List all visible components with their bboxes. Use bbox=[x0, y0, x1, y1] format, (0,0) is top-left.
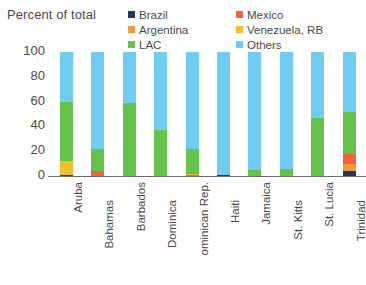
bar-ominican-rep bbox=[186, 52, 199, 176]
bar-segment bbox=[217, 175, 230, 176]
x-axis-category-label: Bahamas bbox=[103, 200, 116, 249]
legend-item: Others bbox=[236, 38, 323, 51]
legend-swatch-icon bbox=[128, 41, 135, 48]
x-axis-category-text: Haiti bbox=[229, 200, 242, 223]
bar-segment bbox=[343, 112, 356, 154]
legend-column-2: MexicoVenezuela, RBOthers bbox=[236, 8, 323, 53]
plot-area bbox=[52, 52, 366, 176]
x-axis-category-label: ominican Rep. bbox=[198, 182, 211, 256]
legend-swatch-icon bbox=[236, 11, 243, 18]
stacked-bar-chart: Percent of total BrazilArgentinaLAC Mexi… bbox=[0, 0, 366, 285]
bar-segment bbox=[60, 102, 73, 162]
legend-label: Others bbox=[247, 39, 282, 51]
y-axis-tick-mark bbox=[48, 176, 52, 177]
bar-bahamas bbox=[91, 52, 104, 176]
y-axis-tick-label: 60 bbox=[31, 96, 45, 106]
x-axis-category-text: ominican Rep. bbox=[198, 182, 211, 256]
bar-segment bbox=[186, 175, 199, 176]
bar-jamaica bbox=[248, 52, 261, 176]
bar-segment bbox=[248, 52, 261, 170]
x-axis-category-text: Bahamas bbox=[103, 200, 116, 249]
legend-item: Venezuela, RB bbox=[236, 23, 323, 36]
bar-segment bbox=[280, 52, 293, 169]
x-axis-category-text: Barbados bbox=[135, 182, 148, 231]
bar-segment bbox=[311, 52, 324, 118]
bar-segment bbox=[91, 171, 104, 176]
bar-segment bbox=[91, 149, 104, 171]
bar-trinidad bbox=[343, 52, 356, 176]
x-axis-labels: ArubaBahamasBarbadosDominicaominican Rep… bbox=[52, 178, 366, 285]
x-axis-category-text: Jamaica bbox=[260, 182, 273, 225]
x-axis-category-label: Dominica bbox=[166, 200, 179, 248]
x-axis-category-label: Haiti bbox=[229, 200, 242, 223]
bar-dominica bbox=[154, 52, 167, 176]
legend-label: LAC bbox=[139, 39, 161, 51]
y-axis-tick-label: 0 bbox=[38, 170, 45, 180]
bar-segment bbox=[123, 52, 136, 103]
bar-segment bbox=[186, 52, 199, 149]
bar-segment bbox=[60, 161, 73, 175]
legend-item: LAC bbox=[128, 38, 188, 51]
bar-segment bbox=[248, 170, 261, 176]
legend-swatch-icon bbox=[236, 41, 243, 48]
bar-haiti bbox=[217, 52, 230, 176]
legend-label: Brazil bbox=[139, 9, 168, 21]
bar-aruba bbox=[60, 52, 73, 176]
legend-item: Argentina bbox=[128, 23, 188, 36]
legend-item: Brazil bbox=[128, 8, 188, 21]
bar-segment bbox=[91, 52, 104, 149]
legend-swatch-icon bbox=[236, 26, 243, 33]
legend-label: Mexico bbox=[247, 9, 283, 21]
bar-segment bbox=[343, 171, 356, 176]
bar-segment bbox=[343, 52, 356, 112]
x-axis-category-text: St. Lucia bbox=[323, 182, 336, 227]
y-axis-labels: 020406080100 bbox=[0, 0, 45, 285]
bar-st-lucia bbox=[311, 52, 324, 176]
y-axis-tick-label: 20 bbox=[31, 145, 45, 155]
bar-segment bbox=[311, 118, 324, 176]
x-axis-category-label: Aruba bbox=[72, 182, 85, 213]
bar-barbados bbox=[123, 52, 136, 176]
x-axis-category-label: Trinidad bbox=[355, 200, 366, 241]
legend-item: Mexico bbox=[236, 8, 323, 21]
x-axis-category-label: St. Kitts bbox=[292, 200, 305, 240]
bar-segment bbox=[154, 130, 167, 176]
bar-segment bbox=[343, 164, 356, 171]
legend-column-1: BrazilArgentinaLAC bbox=[128, 8, 188, 53]
bar-segment bbox=[186, 149, 199, 174]
x-axis-category-label: Barbados bbox=[135, 182, 148, 231]
x-axis-category-label: St. Lucia bbox=[323, 182, 336, 227]
x-axis-category-text: Dominica bbox=[166, 200, 179, 248]
bar-segment bbox=[280, 169, 293, 176]
legend-swatch-icon bbox=[128, 26, 135, 33]
bar-segment bbox=[154, 52, 167, 130]
bar-segment bbox=[343, 154, 356, 164]
bar-st-kitts bbox=[280, 52, 293, 176]
x-axis-category-label: Jamaica bbox=[260, 182, 273, 225]
y-axis-tick-label: 40 bbox=[31, 120, 45, 130]
legend-swatch-icon bbox=[128, 11, 135, 18]
bar-segment bbox=[123, 103, 136, 176]
legend-label: Venezuela, RB bbox=[247, 24, 323, 36]
x-axis-category-text: Trinidad bbox=[355, 200, 366, 241]
bar-segment bbox=[60, 52, 73, 102]
y-axis-tick-label: 80 bbox=[31, 71, 45, 81]
bar-segment bbox=[60, 175, 73, 176]
x-axis-category-text: Aruba bbox=[72, 182, 85, 213]
y-axis-tick-label: 100 bbox=[23, 46, 45, 56]
bar-segment bbox=[217, 52, 230, 175]
x-axis-category-text: St. Kitts bbox=[292, 200, 305, 240]
x-axis-line bbox=[48, 176, 366, 177]
legend-label: Argentina bbox=[139, 24, 188, 36]
